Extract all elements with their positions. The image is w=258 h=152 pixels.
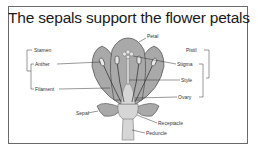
style-shape xyxy=(127,58,129,84)
flower-diagram: Petal Stamen Anther Filament Sepal Pisti… xyxy=(0,0,258,152)
peduncle-shape xyxy=(122,118,134,140)
label-receptacle: Receptacle xyxy=(158,120,183,126)
label-petal: Petal xyxy=(147,33,158,39)
label-sepal: Sepal xyxy=(76,110,89,116)
label-peduncle: Peduncle xyxy=(146,130,167,136)
label-filament: Filament xyxy=(35,86,55,92)
label-stamen: Stamen xyxy=(34,47,51,53)
label-anther: Anther xyxy=(35,61,50,67)
label-pistil: Pistil xyxy=(186,47,197,53)
label-ovary: Ovary xyxy=(178,94,192,100)
label-stigma: Stigma xyxy=(177,61,193,67)
label-style: Style xyxy=(181,77,192,83)
receptacle-shape xyxy=(118,104,138,119)
